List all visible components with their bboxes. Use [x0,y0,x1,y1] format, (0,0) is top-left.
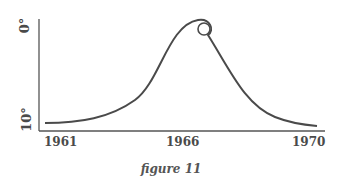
x-tick-label-1966: 1966 [166,135,199,149]
data-curve [45,20,317,126]
x-tick-label-1961: 1961 [44,135,77,149]
marker-circle [198,23,210,35]
y-tick-label-top: 0° [17,18,32,34]
chart-canvas [0,0,342,189]
y-tick-label-bottom: 10° [19,107,34,132]
x-tick-label-1970: 1970 [292,135,325,149]
figure-caption: figure 11 [0,162,342,176]
